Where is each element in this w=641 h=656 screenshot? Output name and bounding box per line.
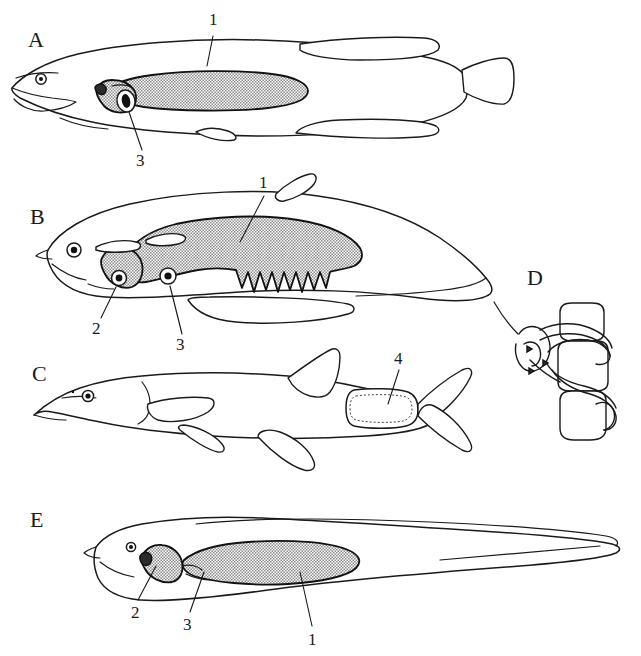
callout-a-1: 1 <box>209 10 218 29</box>
callout-e-2: 2 <box>131 603 140 622</box>
callout-c-4: 4 <box>394 349 403 368</box>
panel-d-detail: D <box>494 265 616 440</box>
panel-letter-c: C <box>32 361 47 386</box>
fish-anatomy-figure: A 1 3 <box>0 0 641 656</box>
callout-b-3: 3 <box>176 335 185 354</box>
detail-connector <box>494 302 518 334</box>
callout-a-3: 3 <box>136 151 145 170</box>
panel-a-fish: A 1 3 <box>12 10 514 170</box>
callout-e-1: 1 <box>308 630 317 649</box>
panel-letter-e: E <box>30 507 43 532</box>
panel-e-fish: E 2 3 1 <box>30 507 619 649</box>
panel-letter-a: A <box>28 27 44 52</box>
callout-b-1: 1 <box>259 173 268 192</box>
callout-b-2: 2 <box>92 319 101 338</box>
panel-letter-d: D <box>527 265 543 290</box>
panel-c-fish: C 4 <box>32 349 472 471</box>
figure-plate: A 1 3 <box>0 0 641 656</box>
panel-letter-b: B <box>30 204 45 229</box>
callout-e-3: 3 <box>183 615 192 634</box>
panel-b-fish: B 1 2 3 <box>30 173 492 354</box>
